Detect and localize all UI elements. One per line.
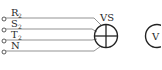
meter-label: V bbox=[151, 31, 160, 42]
terminal-label-s: S bbox=[11, 18, 18, 29]
selector-switch-icon: VS bbox=[95, 12, 118, 48]
switch-label: VS bbox=[99, 12, 114, 23]
voltmeter-icon: V bbox=[146, 25, 162, 48]
terminal-label-n: N bbox=[11, 40, 20, 51]
terminal-label-t: T bbox=[11, 29, 18, 40]
wiring-diagram: R 2 S 2 T 2 N VS V bbox=[0, 0, 161, 70]
terminal-sub-s: 2 bbox=[18, 23, 22, 30]
terminal-n: N bbox=[2, 40, 101, 54]
terminal-sub-r: 2 bbox=[18, 12, 22, 19]
